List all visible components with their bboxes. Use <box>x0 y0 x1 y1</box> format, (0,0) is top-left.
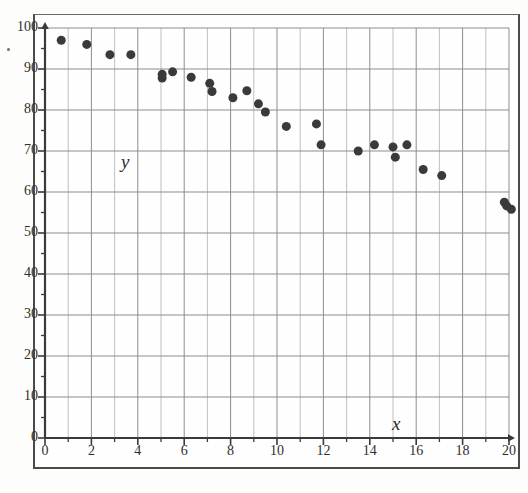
scatter-point <box>370 140 379 149</box>
scatter-point <box>282 122 291 131</box>
scatter-point <box>105 50 114 59</box>
scatter-point <box>242 86 251 95</box>
x-tick-label: 2 <box>80 443 102 459</box>
x-tick-label: 14 <box>359 443 381 459</box>
scatter-points-layer <box>45 28 509 438</box>
scatter-point <box>82 40 91 49</box>
y-tick-label: 20 <box>12 347 38 363</box>
scatter-point <box>354 147 363 156</box>
x-tick-label: 18 <box>452 443 474 459</box>
y-tick-label: 50 <box>12 224 38 240</box>
y-tick-label: 70 <box>12 142 38 158</box>
y-tick-label: 100 <box>6 19 38 35</box>
chart-page-frame: 010203040506070809010002468101214161820 … <box>33 14 520 469</box>
scatter-point <box>507 205 516 214</box>
scatter-point <box>317 140 326 149</box>
scan-speck <box>7 48 10 51</box>
scatter-point <box>187 73 196 82</box>
x-tick-label: 16 <box>405 443 427 459</box>
scatter-point <box>312 119 321 128</box>
x-tick-label: 0 <box>34 443 56 459</box>
x-tick-label: 10 <box>266 443 288 459</box>
x-tick-label: 4 <box>127 443 149 459</box>
scatter-point <box>254 99 263 108</box>
scatter-point <box>158 74 167 83</box>
scatter-point <box>419 165 428 174</box>
scatter-point <box>261 108 270 117</box>
y-tick-label: 30 <box>12 306 38 322</box>
scatter-point <box>208 87 217 96</box>
plot-area <box>45 28 509 438</box>
scatter-point <box>391 153 400 162</box>
scatter-point <box>168 67 177 76</box>
y-tick-label: 10 <box>12 388 38 404</box>
x-axis-label: x <box>392 413 400 435</box>
y-tick-label: 40 <box>12 265 38 281</box>
scatter-plot-figure: 010203040506070809010002468101214161820 … <box>0 0 528 493</box>
scatter-point <box>402 140 411 149</box>
y-tick-label: 60 <box>12 183 38 199</box>
y-tick-label: 80 <box>12 101 38 117</box>
scatter-point <box>228 93 237 102</box>
scatter-point <box>126 50 135 59</box>
x-tick-label: 8 <box>220 443 242 459</box>
scatter-point <box>205 79 214 88</box>
scatter-point <box>57 36 66 45</box>
y-axis-label: y <box>121 151 129 173</box>
x-tick-label: 12 <box>312 443 334 459</box>
x-tick-label: 6 <box>173 443 195 459</box>
x-tick-label: 20 <box>498 443 520 459</box>
y-tick-label: 90 <box>12 60 38 76</box>
scatter-point <box>389 142 398 151</box>
scatter-point <box>437 171 446 180</box>
